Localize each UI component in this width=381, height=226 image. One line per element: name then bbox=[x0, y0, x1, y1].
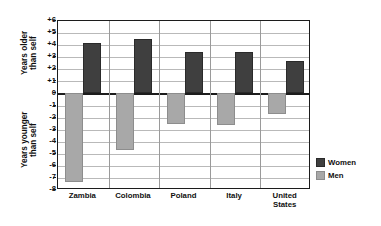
y-tick-mark bbox=[53, 20, 56, 21]
legend-swatch-men bbox=[316, 171, 325, 180]
x-axis-label: Zambia bbox=[57, 191, 108, 200]
y-tick-mark bbox=[53, 153, 56, 154]
bar-women bbox=[235, 52, 253, 93]
y-axis-ticks: +6+5+4+3+2+10-1-2-3-4-5-6-7-8 bbox=[36, 0, 56, 226]
gridline bbox=[58, 154, 309, 155]
legend-label: Women bbox=[328, 158, 356, 167]
y-tick-mark bbox=[53, 177, 56, 178]
y-tick-mark bbox=[53, 44, 56, 45]
bar-men bbox=[116, 93, 134, 150]
category-separator bbox=[159, 21, 160, 188]
bar-women bbox=[134, 39, 152, 93]
y-tick-mark bbox=[53, 129, 56, 130]
bar-women bbox=[185, 52, 203, 93]
y-tick-mark bbox=[53, 141, 56, 142]
y-tick-mark bbox=[53, 189, 56, 190]
plot-area bbox=[57, 20, 310, 189]
age-preference-bar-chart: Years older than self Years younger than… bbox=[0, 0, 381, 226]
x-axis-label: Poland bbox=[158, 191, 209, 200]
y-tick-mark bbox=[53, 56, 56, 57]
bar-men bbox=[217, 93, 235, 124]
chart-legend: WomenMen bbox=[316, 156, 376, 182]
gridline bbox=[58, 130, 309, 131]
legend-item: Women bbox=[316, 156, 376, 168]
bar-women bbox=[286, 61, 304, 94]
gridline bbox=[58, 166, 309, 167]
y-tick-mark bbox=[53, 80, 56, 81]
legend-item: Men bbox=[316, 169, 376, 181]
bar-women bbox=[83, 43, 101, 94]
y-tick-mark bbox=[53, 68, 56, 69]
gridline bbox=[58, 142, 309, 143]
category-separator bbox=[260, 21, 261, 188]
y-tick-mark bbox=[53, 165, 56, 166]
legend-label: Men bbox=[328, 171, 344, 180]
bar-men bbox=[65, 93, 83, 181]
x-axis-label: United States bbox=[259, 191, 310, 210]
bar-men bbox=[268, 93, 286, 114]
x-axis-label: Colombia bbox=[108, 191, 159, 200]
category-separator bbox=[109, 21, 110, 188]
y-tick-mark bbox=[53, 105, 56, 106]
gridline bbox=[58, 33, 309, 34]
legend-swatch-women bbox=[316, 158, 325, 167]
bar-men bbox=[167, 93, 185, 123]
category-separator bbox=[210, 21, 211, 188]
x-axis-label: Italy bbox=[209, 191, 260, 200]
y-tick-mark bbox=[53, 117, 56, 118]
x-axis-labels: ZambiaColombiaPolandItalyUnited States bbox=[57, 191, 310, 225]
y-tick-mark bbox=[53, 32, 56, 33]
gridline bbox=[58, 178, 309, 179]
y-tick-mark bbox=[53, 92, 56, 93]
